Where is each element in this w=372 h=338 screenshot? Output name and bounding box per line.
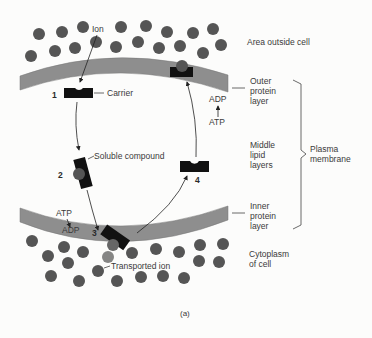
step-3-number: 3 xyxy=(92,228,97,238)
inner-layer-label-2: protein xyxy=(250,211,276,221)
outer-protein-layer xyxy=(20,58,228,92)
middle-layer-label-3: layers xyxy=(250,160,273,170)
inner-layer-label-1: Inner xyxy=(250,201,270,211)
cytoplasm-label-1: Cytoplasm xyxy=(249,249,289,259)
step-4-number: 4 xyxy=(195,175,200,185)
middle-layer-label-2: lipid xyxy=(250,150,265,160)
inner-protein-layer xyxy=(20,206,228,242)
cytoplasm-label-2: of cell xyxy=(249,259,271,269)
atp-top-label: ATP xyxy=(209,117,225,127)
adp-top-label: ADP xyxy=(209,94,227,104)
carrier-transport-diagram: 1 Carrier Ion 2 Soluble compound 3 4 ADP… xyxy=(0,0,372,338)
plasma-membrane-brace xyxy=(293,80,306,229)
outside-ions xyxy=(25,20,227,62)
plasma-label: Plasma xyxy=(310,144,339,154)
transported-ion-label: Transported ion xyxy=(111,261,170,271)
outer-layer-label-3: layer xyxy=(250,96,269,106)
adp-bottom-label: ADP xyxy=(62,225,80,235)
step-2-number: 2 xyxy=(58,170,63,180)
atp-bottom-label: ATP xyxy=(56,208,72,218)
middle-layer-label-1: Middle xyxy=(250,140,275,150)
step-1-number: 1 xyxy=(52,90,57,100)
inner-layer-label-3: layer xyxy=(250,221,269,231)
ion-label: Ion xyxy=(92,24,104,34)
area-outside-label: Area outside cell xyxy=(247,37,310,47)
outer-layer-label-2: protein xyxy=(250,86,276,96)
carrier-step-4 xyxy=(180,161,209,172)
membrane-label: membrane xyxy=(310,154,351,164)
figure-caption: (a) xyxy=(180,309,190,318)
carrier-step-1 xyxy=(64,88,93,98)
carrier-label: Carrier xyxy=(107,88,133,98)
outer-layer-label-1: Outer xyxy=(250,76,271,86)
soluble-compound-label: Soluble compound xyxy=(94,151,165,161)
